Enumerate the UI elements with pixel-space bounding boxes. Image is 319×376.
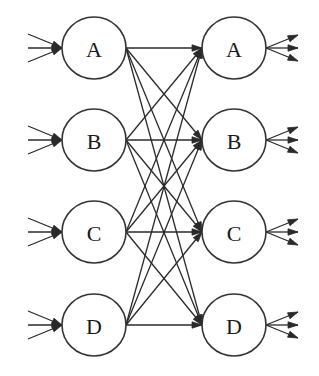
node-label: D [86,314,102,339]
arrowhead-icon [288,322,298,328]
arrowhead-icon [52,48,62,55]
node-right-D: D [202,294,266,356]
arrowhead-icon [288,146,298,153]
node-right-C: C [202,201,266,263]
node-left-B: B [62,109,126,171]
node-label: D [226,314,242,339]
arrowhead-icon [288,238,298,245]
arrowhead-icon [288,312,298,319]
arrowhead-icon [288,45,298,51]
node-label: A [86,37,102,62]
arrowhead-icon [288,229,298,235]
node-label: C [227,221,242,246]
arrowhead-icon [52,325,62,332]
arrowhead-icon [288,35,298,42]
arrowhead-icon [288,127,298,134]
node-left-D: D [62,294,126,356]
arrowhead-icon [52,140,62,147]
arrowhead-icon [288,54,298,61]
edges-layer [126,45,202,328]
arrowhead-icon [52,232,62,239]
node-left-A: A [62,17,126,79]
network-diagram: ABCDABCD [0,0,319,376]
node-left-C: C [62,201,126,263]
node-right-A: A [202,17,266,79]
arrowhead-icon [288,331,298,338]
node-label: B [227,129,242,154]
node-right-B: B [202,109,266,171]
arrowhead-icon [288,219,298,226]
node-label: C [87,221,102,246]
node-label: A [226,37,242,62]
node-label: B [87,129,102,154]
arrowhead-icon [288,137,298,143]
